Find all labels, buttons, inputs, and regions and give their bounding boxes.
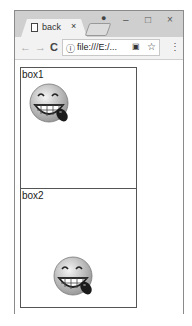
toolbar: ← → C ⓘ file:///E:/... ▣ ☆ ⋮: [15, 37, 183, 60]
forward-button[interactable]: →: [35, 41, 46, 53]
tab-back[interactable]: back ×: [21, 19, 87, 37]
title-bar: back × ● – □ ×: [15, 11, 183, 37]
document-icon: [31, 23, 38, 32]
back-button[interactable]: ←: [20, 41, 31, 53]
new-tab-button[interactable]: [85, 23, 112, 36]
maximize-button[interactable]: □: [145, 14, 151, 25]
box2: box2: [20, 188, 137, 308]
box2-label: box2: [22, 190, 44, 201]
grinning-emoji-icon: [53, 255, 97, 299]
translate-icon[interactable]: ▣: [132, 42, 140, 51]
close-window-button[interactable]: ×: [167, 14, 173, 25]
address-bar[interactable]: ⓘ file:///E:/... ▣ ☆: [62, 39, 160, 56]
tab-close-icon[interactable]: ×: [71, 21, 76, 31]
minimize-button[interactable]: –: [123, 14, 129, 25]
grinning-emoji-icon: [29, 82, 73, 126]
menu-icon[interactable]: ⋮: [170, 41, 180, 52]
reload-button[interactable]: C: [50, 41, 58, 53]
profile-icon[interactable]: ●: [101, 13, 106, 23]
box1-label: box1: [22, 69, 44, 80]
tab-title: back: [42, 22, 61, 32]
bookmark-star-icon[interactable]: ☆: [147, 41, 156, 52]
url-text[interactable]: file:///E:/...: [77, 42, 117, 52]
browser-window: back × ● – □ × ← → C ⓘ file:///E:/... ▣ …: [14, 10, 184, 314]
info-icon[interactable]: ⓘ: [66, 42, 75, 55]
page-viewport: box1 box2: [15, 60, 183, 314]
box1: box1: [20, 67, 137, 189]
